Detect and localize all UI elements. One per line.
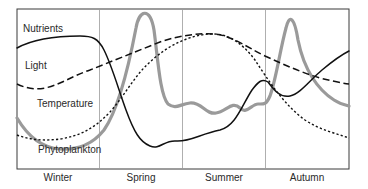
label-nutrients: Nutrients	[23, 24, 63, 34]
nutrients-curve	[17, 36, 349, 147]
label-temperature: Temperature	[37, 99, 93, 109]
season-autumn: Autumn	[266, 173, 348, 183]
phytoplankton-curve	[17, 13, 349, 149]
season-summer: Summer	[183, 173, 265, 183]
label-light: Light	[25, 61, 47, 71]
label-phytoplankton: Phytoplankton	[38, 145, 101, 155]
season-spring: Spring	[100, 173, 182, 183]
season-winter: Winter	[17, 173, 99, 183]
